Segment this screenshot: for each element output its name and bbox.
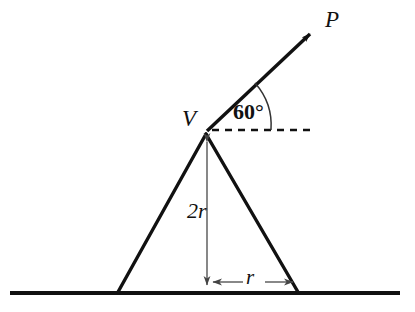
height-dimension-label-2r: 2r bbox=[187, 200, 207, 222]
diagram-canvas bbox=[0, 0, 415, 312]
base-dimension-label-r: r bbox=[246, 267, 254, 288]
geometry-diagram: P V 60° 2r r bbox=[0, 0, 415, 312]
angle-label-60-degrees: 60° bbox=[233, 101, 264, 123]
force-vector-label-P: P bbox=[325, 8, 339, 31]
vertex-label-V: V bbox=[182, 107, 196, 130]
